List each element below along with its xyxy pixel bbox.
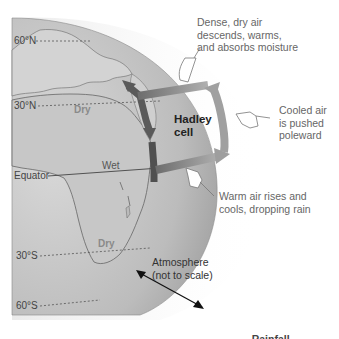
rising-air-column bbox=[152, 142, 154, 182]
region-label-dry-south: Dry bbox=[98, 238, 115, 249]
region-label-wet: Wet bbox=[102, 160, 120, 171]
lat-label-30n: 30°N bbox=[14, 100, 36, 111]
lat-label-60s: 60°S bbox=[16, 300, 38, 311]
annotation-atmosphere: Atmosphere (not to scale) bbox=[152, 256, 213, 281]
footer-partial-text: ... Rainfall ... bbox=[240, 333, 301, 339]
hadley-cell-diagram: 60°N 30°N Equator 30°S 60°S Dry Wet Dry … bbox=[0, 0, 339, 339]
region-label-dry-north: Dry bbox=[74, 104, 91, 115]
lat-label-60n: 60°N bbox=[14, 35, 36, 46]
annotation-rising-air: Warm air rises and cools, dropping rain bbox=[219, 190, 311, 215]
lat-label-equator: Equator bbox=[14, 170, 49, 181]
hadley-cell-label: Hadley cell bbox=[174, 113, 212, 139]
lat-label-30s: 30°S bbox=[16, 250, 38, 261]
annotation-poleward: Cooled air is pushed poleward bbox=[279, 104, 327, 142]
annotation-descending-air: Dense, dry air descends, warms, and abso… bbox=[197, 16, 298, 54]
